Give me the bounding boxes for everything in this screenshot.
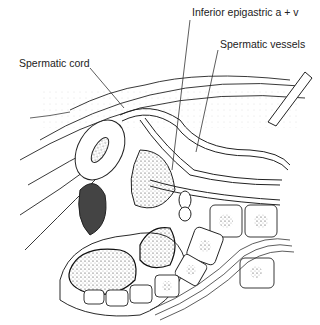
organ-sections (65, 111, 191, 235)
label-spermatic-vessels: Spermatic vessels (220, 38, 305, 50)
label-spermatic-cord: Spermatic cord (19, 57, 90, 69)
label-inferior-epigastric: Inferior epigastric a + v (192, 6, 299, 18)
anatomy-figure: Inferior epigastric a + v Spermatic vess… (0, 0, 320, 325)
